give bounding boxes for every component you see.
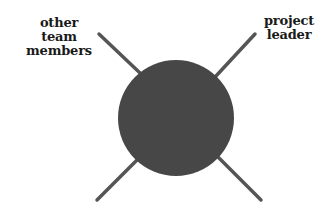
label-line: members — [20, 44, 98, 58]
label-line: other team — [20, 16, 98, 44]
connector-line-top-left — [99, 34, 140, 73]
connector-line-bottom-right — [216, 155, 261, 200]
connector-line-top-right — [216, 34, 255, 76]
label-line: project — [258, 14, 320, 28]
central-circle — [118, 60, 234, 176]
label-other-team-members: other team members — [20, 16, 98, 58]
label-project-leader: project leader — [258, 14, 320, 42]
label-line: leader — [258, 28, 320, 42]
connector-line-bottom-left — [97, 159, 138, 200]
